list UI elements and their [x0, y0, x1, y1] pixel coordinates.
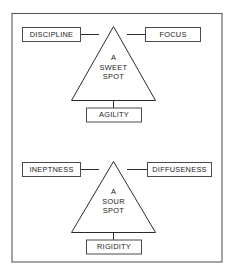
label-focus: FOCUS	[159, 31, 186, 38]
label-rigidity: RIGIDITY	[97, 244, 131, 251]
label-sour-spot: A SOUR SPOT	[102, 187, 125, 216]
label-sweet-spot: A SWEET SPOT	[100, 53, 128, 82]
diagram-canvas: DISCIPLINE FOCUS A SWEET SPOT AGILITY IN…	[0, 0, 236, 275]
label-sweet-spot-line-2: SWEET	[100, 63, 128, 73]
outer-frame	[12, 14, 222, 263]
label-sweet-spot-line-3: SPOT	[100, 72, 128, 82]
label-diffuseness: DIFFUSENESS	[152, 166, 207, 173]
label-agility: AGILITY	[99, 112, 129, 119]
diagram-vector-layer	[0, 0, 236, 275]
label-sour-spot-line-1: A	[102, 187, 125, 197]
label-sweet-spot-line-1: A	[100, 53, 128, 63]
label-sour-spot-line-2: SOUR	[102, 197, 125, 207]
label-discipline: DISCIPLINE	[30, 31, 74, 38]
label-sour-spot-line-3: SPOT	[102, 206, 125, 216]
label-ineptness: INEPTNESS	[29, 166, 73, 173]
